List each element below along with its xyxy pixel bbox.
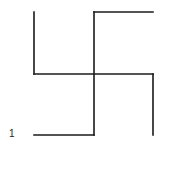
figure-segments [34,12,153,135]
figure-label: 1 [9,128,15,139]
line-figure: 1 [0,0,171,169]
